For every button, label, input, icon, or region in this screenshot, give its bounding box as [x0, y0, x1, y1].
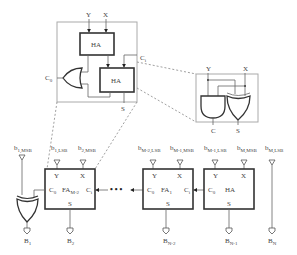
fa-detail-carry-out: C0: [45, 74, 53, 83]
full-adder-detail: Y X HA Ci HA C0 S: [45, 11, 147, 113]
block-ha-label: HA: [225, 186, 235, 194]
or-gate: [63, 68, 82, 88]
output-bn2: BN-2: [163, 237, 176, 246]
svg-text:Y: Y: [213, 172, 218, 180]
input-bm-lsb: bM,LSB: [265, 144, 284, 154]
svg-text:Y: Y: [152, 172, 157, 180]
svg-text:S: S: [166, 200, 170, 208]
input-bm2-lsb: bM-2,LSB: [138, 144, 161, 154]
ha-detail-input-x: X: [243, 65, 248, 73]
output-b2: B2: [67, 237, 75, 246]
block-fa-m2: Y X C0 FAM-2 Ci S: [45, 169, 95, 209]
fa-detail-input-x: X: [103, 11, 108, 19]
chain-ellipsis: • • •: [110, 185, 123, 194]
fa-detail-sum: S: [121, 105, 125, 113]
block-ha: Y X C0 HA S: [204, 169, 254, 209]
xor-gate: [227, 96, 250, 120]
output-b1: B1: [24, 237, 32, 246]
ha-detail-sum: S: [236, 127, 240, 135]
input-bm-msb: bM,MSB: [237, 144, 257, 154]
svg-text:X: X: [241, 172, 246, 180]
svg-text:S: S: [68, 200, 72, 208]
input-bm1-msb: bM-1,MSB: [170, 144, 195, 154]
and-gate: [201, 96, 225, 118]
input-bm1-lsb: bM-1,LSB: [204, 144, 227, 154]
circuit-diagram: Y X HA Ci HA C0 S Y X: [0, 0, 297, 255]
svg-text:X: X: [80, 172, 85, 180]
svg-text:S: S: [227, 200, 231, 208]
fa-detail-input-y: Y: [86, 11, 91, 19]
ha-top-label: HA: [91, 41, 101, 49]
ha-detail-input-y: Y: [206, 65, 211, 73]
output-bn1: BN-1: [225, 237, 238, 246]
input-b2-msb: b2,MSB: [78, 144, 96, 154]
ha-detail-carry: C: [211, 127, 216, 135]
ha-bottom-label: HA: [111, 77, 121, 85]
output-bn: BN: [268, 237, 277, 246]
fa-detail-carry-in: Ci: [140, 54, 147, 63]
svg-text:X: X: [177, 172, 182, 180]
half-adder-detail: Y X C S: [196, 65, 258, 135]
svg-text:Y: Y: [54, 172, 59, 180]
input-b1-msb: b1,MSB: [14, 144, 32, 154]
final-xor-gate: [17, 190, 45, 228]
block-fa-1: Y X C0 FA1 Ci S: [143, 169, 193, 209]
input-b1-lsb: b1,LSB: [51, 144, 68, 154]
chain-outputs: B1 B2 BN-2 BN-1 BN: [24, 209, 277, 246]
